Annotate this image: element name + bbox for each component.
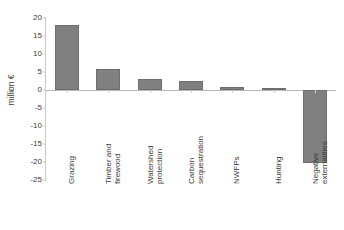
x-axis-label-text: Timber andfirewood bbox=[104, 144, 122, 184]
y-tick-label: 5 bbox=[38, 68, 46, 76]
y-tick-label: -15 bbox=[30, 140, 46, 148]
x-tick-mark bbox=[274, 90, 275, 93]
x-tick-mark bbox=[150, 90, 151, 93]
x-axis-label-line: firewood bbox=[113, 144, 122, 184]
x-axis-label-text: Carbonsequestration bbox=[187, 136, 205, 184]
x-axis-label-line: Watershed bbox=[146, 146, 155, 184]
x-tick-mark bbox=[67, 90, 68, 93]
x-tick-mark bbox=[315, 90, 316, 93]
x-axis-label-line: externalities bbox=[320, 141, 329, 184]
x-axis-label-line: Grazing bbox=[67, 156, 76, 184]
x-axis-label-text: Negativeexternalities bbox=[311, 141, 329, 184]
x-tick-mark bbox=[191, 90, 192, 93]
bar-chart: million € 20151050-5-10-15-20-25 Grazing… bbox=[0, 0, 344, 230]
x-axis-label-text: Watershedprotection bbox=[146, 146, 164, 184]
x-tick-mark bbox=[108, 90, 109, 93]
bar[interactable] bbox=[138, 79, 162, 90]
x-tick-mark bbox=[232, 90, 233, 93]
bar[interactable] bbox=[55, 25, 79, 90]
x-axis-label-text: NWFPs bbox=[232, 156, 241, 184]
y-tick-label: -25 bbox=[30, 176, 46, 184]
y-tick-label: 10 bbox=[33, 50, 46, 58]
y-axis-title-text: million € bbox=[6, 74, 16, 105]
x-axis-label-line: Timber and bbox=[104, 144, 113, 184]
y-tick-label: -5 bbox=[35, 104, 46, 112]
x-axis-label-text: Hunting bbox=[274, 156, 283, 184]
y-tick-label: 15 bbox=[33, 32, 46, 40]
bar[interactable] bbox=[179, 81, 203, 90]
x-axis-label-line: NWFPs bbox=[232, 156, 241, 184]
x-axis-label-line: protection bbox=[155, 146, 164, 184]
y-tick-label: -10 bbox=[30, 122, 46, 130]
y-axis-title: million € bbox=[0, 0, 22, 180]
y-tick-label: 0 bbox=[38, 86, 46, 94]
y-tick-label: 20 bbox=[33, 14, 46, 22]
y-tick-label: -20 bbox=[30, 158, 46, 166]
x-axis-label-line: Negative bbox=[311, 152, 320, 184]
bar[interactable] bbox=[96, 69, 120, 90]
x-axis-label-line: Carbon bbox=[187, 158, 196, 184]
x-axis-label-line: sequestration bbox=[196, 136, 205, 184]
x-axis-label-line: Hunting bbox=[274, 156, 283, 184]
x-axis-label-text: Grazing bbox=[67, 156, 76, 184]
